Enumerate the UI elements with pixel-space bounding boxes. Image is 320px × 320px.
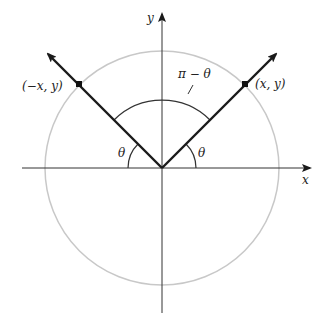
diagram-canvas xyxy=(0,0,320,320)
arc-theta-left xyxy=(128,144,138,168)
x-axis-label: x xyxy=(302,174,309,186)
arc-theta-right xyxy=(186,144,196,168)
y-axis-label: y xyxy=(147,12,154,24)
point-left-label: (−x, y) xyxy=(22,80,63,92)
label-leader xyxy=(188,85,193,94)
theta-right-label: θ xyxy=(198,147,205,159)
theta-left-label: θ xyxy=(118,147,125,159)
point-right xyxy=(242,81,248,87)
angle-between-label: π − θ xyxy=(178,68,211,80)
ray-left xyxy=(48,54,162,168)
point-left xyxy=(76,81,82,87)
diagram: y x (−x, y) (x, y) π − θ θ θ xyxy=(0,0,320,320)
point-right-label: (x, y) xyxy=(255,78,286,90)
